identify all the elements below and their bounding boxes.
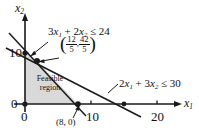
x-tick-label-0: 0 [21,110,28,123]
c1-rhs: 24 [99,25,110,37]
constraint-1-leader [33,42,48,54]
y-axis-sub: 2 [20,7,24,16]
y-tick-label-10: 10 [9,46,22,59]
x-tick-label-20: 20 [151,110,164,123]
constraint-2-leader [108,84,118,93]
feasible-region-label: Feasible region [29,74,71,92]
marker-origin [22,101,27,106]
vertex-close-paren: ) [90,33,96,54]
marker-x-intercept [75,101,81,107]
c2-var1-sub: 1 [129,83,132,90]
linear-programming-graph: x2 x1 10 0 0 10 20 3x1 + 2x2 ≤ 24 (125,4… [0,0,199,137]
vertex-y-denominator: 5 [79,45,90,54]
feasible-region-line1: Feasible [37,74,64,83]
marker-second-x-intercept [122,102,127,107]
x-axis-sub: 1 [189,102,193,111]
constraint-2-label: 2x1 + 3x2 ≤ 30 [119,78,181,90]
x-intercept-label: (8, 0) [56,118,76,127]
c2-rel: ≤ [161,77,167,89]
graph-canvas [0,0,199,137]
x-axis-arrowhead [174,101,182,107]
c2-var2-sub: 2 [155,83,158,90]
vertex-fraction-y: 425 [79,35,90,53]
marker-y-intercept [22,50,27,55]
y-axis-label: x2 [15,2,24,15]
vertex-label: (125,425) [60,35,96,53]
x-tick-label-10: 10 [86,110,99,123]
feasible-region-line2: region [40,83,60,92]
y-tick-label-0: 0 [11,97,18,110]
c2-plus: + [136,77,142,89]
marker-intersection [34,58,40,64]
vertex-leader [42,58,59,61]
x-axis-label: x1 [184,97,193,110]
c2-rhs: 30 [170,77,181,89]
vertex-x-denominator: 5 [66,45,77,54]
vertex-fraction-x: 125 [66,35,77,53]
